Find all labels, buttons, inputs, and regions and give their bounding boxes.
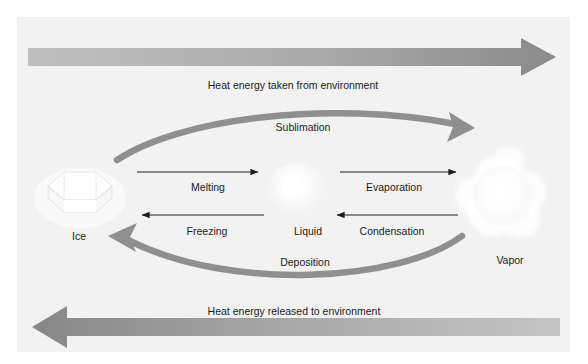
state-label-ice: Ice — [72, 231, 86, 242]
top-energy-arrow-label: Heat energy taken from environment — [208, 80, 378, 91]
ice-crystal-icon — [34, 168, 126, 228]
melting-label: Melting — [191, 182, 225, 193]
freezing-label: Freezing — [187, 226, 228, 237]
water-droplet-icon — [268, 162, 328, 222]
sublimation-arrow — [117, 112, 475, 160]
sublimation-label: Sublimation — [276, 122, 331, 133]
state-label-liquid: Liquid — [294, 226, 322, 237]
phase-change-diagram: Heat energy taken from environment Heat … — [0, 0, 588, 364]
vapor-cloud-icon — [455, 146, 546, 238]
deposition-label: Deposition — [280, 257, 330, 268]
state-label-vapor: Vapor — [496, 255, 523, 266]
top-energy-arrow — [28, 38, 556, 76]
condensation-label: Condensation — [360, 226, 425, 237]
bottom-energy-arrow-label: Heat energy released to environment — [208, 306, 381, 317]
evaporation-label: Evaporation — [366, 182, 422, 193]
